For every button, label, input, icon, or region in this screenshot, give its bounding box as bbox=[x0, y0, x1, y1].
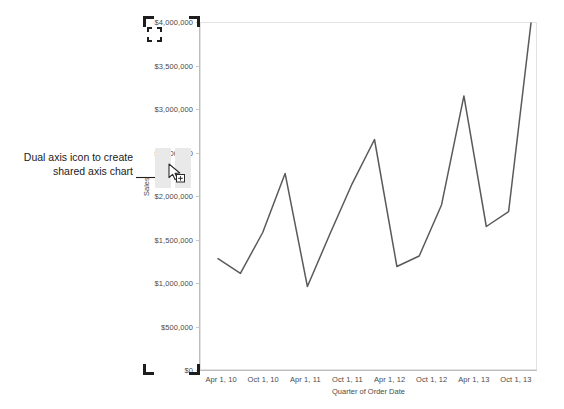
y-tick-label: $3,000,000 bbox=[154, 105, 193, 114]
x-tick-label: Apr 1, 11 bbox=[290, 375, 321, 384]
y-tick-mark bbox=[196, 327, 199, 328]
selection-corner-top-right bbox=[189, 16, 200, 27]
y-tick-mark bbox=[196, 109, 199, 110]
y-axis-title: Sales bbox=[142, 177, 151, 196]
y-tick-label: $500,000 bbox=[161, 322, 193, 331]
y-tick-label: $3,500,000 bbox=[154, 61, 193, 70]
selection-corner-top-left bbox=[143, 16, 154, 27]
y-tick-label: $1,000,000 bbox=[154, 279, 193, 288]
y-tick-mark bbox=[196, 66, 199, 67]
y-tick-label: $1,500,000 bbox=[154, 235, 193, 244]
x-tick-label: Oct 1, 13 bbox=[500, 375, 531, 384]
screenshot-root: Dual axis icon to create shared axis cha… bbox=[0, 0, 564, 409]
y-tick-label: $4,000,000 bbox=[154, 18, 193, 27]
y-tick-mark bbox=[196, 283, 199, 284]
plot-area[interactable] bbox=[200, 22, 537, 370]
y-tick-mark bbox=[196, 240, 199, 241]
y-axis-line bbox=[199, 22, 200, 371]
x-tick-label: Apr 1, 12 bbox=[374, 375, 405, 384]
selection-corner-bottom-right bbox=[189, 364, 200, 375]
x-axis-line bbox=[199, 370, 537, 371]
x-tick-label: Oct 1, 12 bbox=[416, 375, 447, 384]
y-tick-mark bbox=[196, 153, 199, 154]
x-tick-label: Oct 1, 10 bbox=[248, 375, 279, 384]
selection-corner-bottom-left bbox=[143, 364, 154, 375]
x-tick-label: Oct 1, 11 bbox=[332, 375, 363, 384]
line-chart[interactable]: Sales $4,000,000$3,500,000$3,000,000$2,5… bbox=[0, 0, 564, 409]
selection-focus-square bbox=[147, 27, 162, 42]
mouse-cursor-icon bbox=[168, 163, 186, 183]
x-axis-title: Quarter of Order Date bbox=[200, 387, 537, 396]
y-tick-mark bbox=[196, 196, 199, 197]
x-tick-label: Apr 1, 13 bbox=[458, 375, 489, 384]
x-tick-label: Apr 1, 10 bbox=[205, 375, 236, 384]
y-tick-label: $2,000,000 bbox=[154, 192, 193, 201]
